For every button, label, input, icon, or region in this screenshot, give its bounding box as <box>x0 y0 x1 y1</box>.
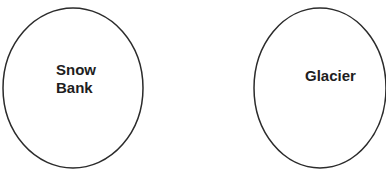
snow-bank-label-line1: Snow <box>56 61 96 79</box>
snow-bank-label-line2: Bank <box>56 79 96 97</box>
snow-bank-label: Snow Bank <box>56 61 96 97</box>
glacier-label-text: Glacier <box>305 67 356 84</box>
glacier-label: Glacier <box>305 67 356 85</box>
glacier-node <box>254 8 386 168</box>
